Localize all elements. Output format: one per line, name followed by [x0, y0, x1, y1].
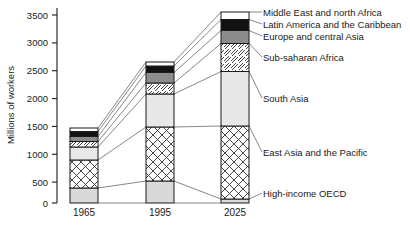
- leader-line: [98, 73, 146, 137]
- bar-segment-south-asia: [146, 94, 174, 127]
- bar-segment-east-asia-pacific: [146, 127, 174, 181]
- leader-line: [249, 31, 262, 37]
- leader-line: [98, 83, 146, 142]
- chart-svg: 3500 3000 2500 2000 1500 1000 500 0 Mill…: [0, 0, 410, 235]
- bar-segment-latin-america-caribbean: [146, 66, 174, 73]
- leader-line: [174, 126, 221, 127]
- leader-line: [249, 72, 262, 99]
- bar-segment-high-income-oecd: [146, 181, 174, 203]
- bar-segment-sub-saharan-africa: [146, 83, 174, 94]
- x-tick-label-1965: 1965: [73, 207, 96, 218]
- y-tick-label: 1500: [27, 121, 48, 132]
- x-tick-label-1995: 1995: [149, 207, 172, 218]
- y-tick-label: 3500: [27, 10, 48, 21]
- leader-line: [98, 181, 146, 188]
- y-tick-label: 0: [43, 198, 48, 209]
- leader-line: [98, 66, 146, 132]
- legend-label-middle-east-north-africa: Middle East and north Africa: [263, 7, 383, 18]
- bar-segment-latin-america-caribbean: [221, 20, 249, 31]
- bar-segment-latin-america-caribbean: [70, 132, 98, 137]
- y-tick-label: 3000: [27, 37, 48, 48]
- bar-segment-south-asia: [70, 147, 98, 160]
- bar-segment-east-asia-pacific: [70, 160, 98, 188]
- y-tick-label: 2500: [27, 65, 48, 76]
- legend-label-south-asia: South Asia: [263, 93, 309, 104]
- bar-1995: [146, 62, 174, 203]
- leader-line: [249, 126, 262, 152]
- leader-line: [249, 193, 262, 199]
- legend-label-sub-saharan-africa: Sub-saharan Africa: [263, 52, 345, 63]
- bar-segment-sub-saharan-africa: [70, 142, 98, 148]
- leader-line: [174, 20, 221, 67]
- x-tick-label-2025: 2025: [224, 207, 247, 218]
- legend-label-europe-central-asia: Europe and central Asia: [263, 31, 365, 42]
- leader-line: [249, 44, 262, 58]
- bar-segment-east-asia-pacific: [221, 126, 249, 199]
- legend-label-east-asia-pacific: East Asia and the Pacific: [263, 147, 368, 158]
- legend-label-latin-america-caribbean: Latin America and the Caribbean: [263, 19, 401, 30]
- y-ticks-group: [52, 15, 57, 203]
- bar-segment-europe-central-asia: [221, 31, 249, 44]
- bar-segment-europe-central-asia: [146, 73, 174, 84]
- stacked-bar-chart: 3500 3000 2500 2000 1500 1000 500 0 Mill…: [0, 0, 410, 235]
- bar-segment-south-asia: [221, 72, 249, 127]
- bar-segment-middle-east-north-africa: [70, 128, 98, 132]
- y-tick-label: 500: [32, 177, 48, 188]
- leader-line: [174, 44, 221, 84]
- leader-line: [174, 181, 221, 199]
- leader-line: [98, 94, 146, 147]
- y-tick-label: 1000: [27, 149, 48, 160]
- bar-segment-high-income-oecd: [70, 188, 98, 203]
- bar-segment-high-income-oecd: [221, 199, 249, 203]
- bar-segment-sub-saharan-africa: [221, 44, 249, 72]
- leader-line: [98, 62, 146, 128]
- bar-segment-middle-east-north-africa: [221, 12, 249, 20]
- y-axis-title: Millions of workers: [5, 66, 16, 144]
- bar-2025: [221, 12, 249, 203]
- legend-label-high-income-oecd: High-income OECD: [263, 188, 347, 199]
- bar-1965: [70, 128, 98, 203]
- y-tick-label: 2000: [27, 93, 48, 104]
- bar-segment-europe-central-asia: [70, 137, 98, 142]
- leader-line: [98, 127, 146, 160]
- bar-segment-middle-east-north-africa: [146, 62, 174, 66]
- leader-line: [249, 20, 262, 25]
- leader-line: [174, 72, 221, 95]
